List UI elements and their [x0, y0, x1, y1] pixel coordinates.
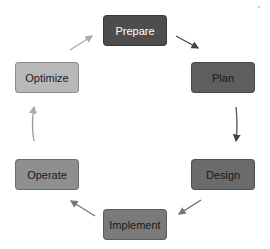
node-design: Design — [191, 159, 255, 190]
arrow-prepare-plan — [176, 36, 198, 48]
node-optimize: Optimize — [15, 62, 79, 93]
node-label: Prepare — [115, 25, 154, 37]
arrow-plan-design — [236, 107, 237, 141]
node-label: Operate — [27, 169, 67, 181]
arrow-implement-operate — [71, 201, 95, 216]
node-label: Implement — [109, 219, 160, 231]
node-plan: Plan — [191, 62, 255, 93]
stray-mark — [258, 6, 260, 8]
arrow-design-implement — [179, 200, 201, 214]
node-implement: Implement — [103, 209, 167, 240]
node-label: Design — [206, 169, 240, 181]
arrow-operate-optimize — [33, 107, 35, 141]
node-prepare: Prepare — [103, 15, 167, 46]
node-label: Plan — [212, 72, 234, 84]
node-label: Optimize — [25, 72, 68, 84]
node-operate: Operate — [15, 159, 79, 190]
arrow-optimize-prepare — [70, 36, 92, 50]
